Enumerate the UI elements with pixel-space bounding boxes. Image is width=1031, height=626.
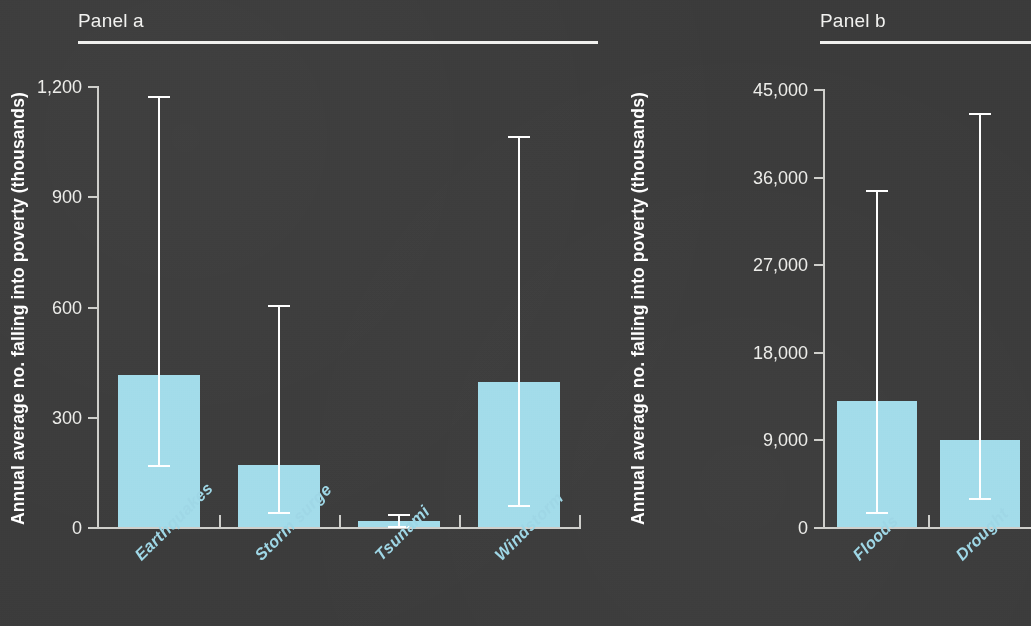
panel-b: Panel b Annual average no. falling into …: [620, 0, 1031, 626]
y-axis-tick: [88, 527, 97, 529]
y-axis-tick: [88, 196, 97, 198]
x-axis-tick: [219, 515, 221, 527]
error-bar-cap-upper: [508, 136, 530, 138]
error-bar-line: [979, 113, 981, 498]
y-axis-tick-label: 1,200: [0, 77, 82, 98]
y-axis-tick-label: 0: [678, 518, 808, 539]
x-axis-tick: [928, 515, 930, 527]
x-axis-category-label: Tsunami: [371, 502, 433, 564]
y-axis-tick-label: 9,000: [678, 430, 808, 451]
error-bar-cap-upper: [268, 305, 290, 307]
y-axis-tick: [88, 86, 97, 88]
error-bar-line: [158, 96, 160, 465]
panel-b-plot-area: 09,00018,00027,00036,00045,000FloodsDrou…: [620, 0, 1031, 626]
y-axis-line: [823, 89, 825, 529]
error-bar-cap-lower: [268, 512, 290, 514]
error-bar-cap-upper: [866, 190, 888, 192]
y-axis-tick-label: 36,000: [678, 167, 808, 188]
error-bar-cap-upper: [148, 96, 170, 98]
error-bar-line: [876, 190, 878, 512]
y-axis-tick: [814, 527, 823, 529]
panel-a-plot-area: 03006009001,200EarthquakesStorm surgeTsu…: [0, 0, 620, 626]
error-bar-line: [518, 136, 520, 505]
x-axis-tick: [459, 515, 461, 527]
y-axis-line: [97, 86, 99, 529]
y-axis-tick: [814, 264, 823, 266]
y-axis-tick: [814, 89, 823, 91]
error-bar-cap-upper: [969, 113, 991, 115]
error-bar-cap-lower: [969, 498, 991, 500]
figure-root: Panel a Annual average no. falling into …: [0, 0, 1031, 626]
y-axis-tick-label: 45,000: [678, 80, 808, 101]
y-axis-tick: [88, 307, 97, 309]
error-bar-line: [278, 305, 280, 512]
y-axis-tick: [88, 417, 97, 419]
y-axis-tick-label: 27,000: [678, 255, 808, 276]
y-axis-tick-label: 18,000: [678, 342, 808, 363]
y-axis-tick-label: 900: [0, 187, 82, 208]
error-bar-cap-lower: [866, 512, 888, 514]
x-axis-tick: [579, 515, 581, 527]
y-axis-tick: [814, 177, 823, 179]
x-axis-tick: [339, 515, 341, 527]
error-bar-cap-lower: [148, 465, 170, 467]
error-bar-cap-lower: [508, 505, 530, 507]
panel-a: Panel a Annual average no. falling into …: [0, 0, 620, 626]
y-axis-tick: [814, 352, 823, 354]
y-axis-tick-label: 300: [0, 407, 82, 428]
y-axis-tick: [814, 439, 823, 441]
y-axis-tick-label: 0: [0, 518, 82, 539]
y-axis-tick-label: 600: [0, 297, 82, 318]
